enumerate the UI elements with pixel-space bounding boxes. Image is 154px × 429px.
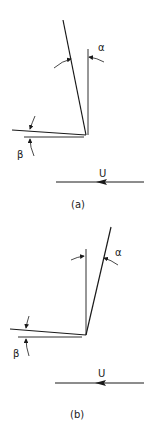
alpha-arrow-right-b bbox=[104, 258, 118, 265]
lower-plate-b bbox=[10, 329, 86, 335]
alpha-arrow-left-b bbox=[71, 256, 84, 260]
flow-label-a: U bbox=[99, 168, 106, 179]
lower-plate-a bbox=[12, 130, 86, 135]
caption-b: (b) bbox=[70, 409, 84, 420]
beta-label-a: β bbox=[17, 149, 23, 160]
flow-label-b: U bbox=[98, 368, 105, 379]
beta-arrow-bottom-a bbox=[30, 139, 34, 156]
panel-b: α β U (b) bbox=[10, 227, 144, 420]
beta-arrow-bottom-b bbox=[26, 339, 29, 356]
beta-label-b: β bbox=[13, 348, 19, 359]
beta-arrow-top-a bbox=[30, 116, 35, 129]
diagram-canvas: α β U (a) α β U (b) bbox=[0, 0, 154, 429]
blade-line-a bbox=[63, 20, 86, 135]
panel-a: α β U (a) bbox=[12, 20, 144, 210]
alpha-label-a: α bbox=[98, 42, 105, 53]
blade-line-b bbox=[86, 227, 111, 335]
alpha-arrow-left-a bbox=[54, 59, 71, 68]
caption-a: (a) bbox=[71, 199, 85, 210]
alpha-label-b: α bbox=[115, 247, 122, 258]
alpha-arrow-right-a bbox=[89, 57, 104, 62]
beta-arrow-top-b bbox=[26, 316, 29, 328]
